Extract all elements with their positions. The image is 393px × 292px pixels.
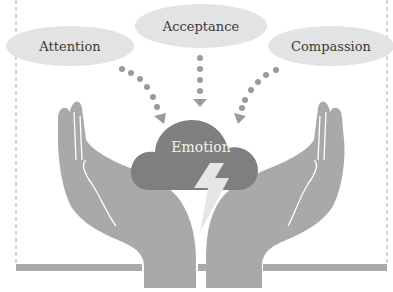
concept-compassion: Compassion xyxy=(268,26,393,66)
emotion-label: Emotion xyxy=(171,139,230,155)
dotted-arrow-attention xyxy=(119,66,166,124)
concept-label-compassion: Compassion xyxy=(291,39,372,54)
dotted-arrow-acceptance xyxy=(193,55,207,107)
concept-label-attention: Attention xyxy=(38,39,101,54)
diagram-canvas: Attention Acceptance Compassion xyxy=(0,0,393,292)
arrowhead-acceptance-icon xyxy=(193,99,207,107)
concept-acceptance: Acceptance xyxy=(135,4,267,48)
ground-bar xyxy=(16,264,387,271)
dotted-arrow-compassion xyxy=(234,67,279,124)
arrowhead-attention-icon xyxy=(154,113,166,124)
right-hand xyxy=(206,102,345,288)
concept-label-acceptance: Acceptance xyxy=(162,19,240,34)
concept-attention: Attention xyxy=(6,26,134,66)
arrowhead-compassion-icon xyxy=(234,113,246,124)
